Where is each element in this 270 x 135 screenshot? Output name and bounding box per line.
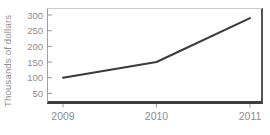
x-tick-label: 2011 [233,110,267,122]
y-tick-label: 300 [16,10,43,21]
y-tick-label: 200 [16,41,43,52]
y-tick-label: 250 [16,25,43,36]
y-axis-title: Thousands of dollars [2,15,13,107]
line-chart: Thousands of dollars 50100150200250300 2… [0,0,270,135]
y-tick-label: 50 [16,88,43,99]
x-tick-label: 2010 [140,110,174,122]
y-tick-label: 150 [16,57,43,68]
x-tick-label: 2009 [46,110,80,122]
y-tick-label: 100 [16,72,43,83]
plot-area [47,8,263,104]
